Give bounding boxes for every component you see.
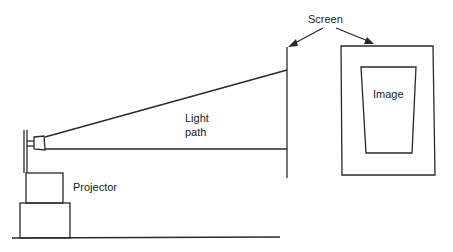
projector-label: Projector bbox=[73, 181, 117, 193]
projector-base bbox=[20, 203, 70, 238]
light-path-label-1: Light bbox=[185, 112, 209, 124]
arrow-to-screen-side bbox=[293, 28, 323, 44]
projector-lens bbox=[34, 136, 45, 150]
arrowhead-left-icon bbox=[288, 39, 298, 47]
light-path-label-2: path bbox=[185, 126, 206, 138]
projected-image bbox=[361, 67, 416, 153]
arrow-to-screen-front bbox=[336, 28, 368, 41]
screen-front-view bbox=[341, 46, 435, 175]
image-label: Image bbox=[373, 88, 404, 100]
projection-diagram: Screen Image Light path Projector bbox=[0, 0, 453, 252]
light-ray-upper bbox=[45, 70, 287, 137]
screen-label: Screen bbox=[308, 13, 343, 25]
projector-body bbox=[26, 173, 63, 203]
arrowhead-right-icon bbox=[364, 37, 374, 44]
